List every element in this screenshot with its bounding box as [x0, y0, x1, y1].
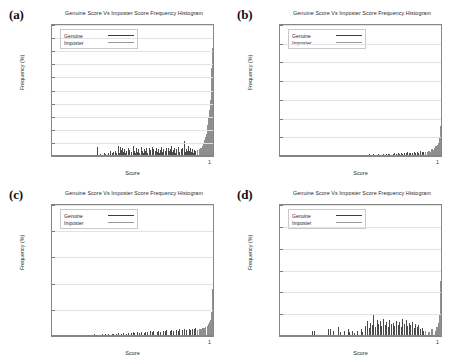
y-tick-mark [52, 64, 55, 65]
y-tick-mark [52, 77, 55, 78]
y-tick-mark [52, 25, 55, 26]
gridline [52, 143, 213, 144]
y-tick-mark [280, 292, 283, 293]
y-tick-mark [52, 91, 55, 92]
gridline [52, 38, 213, 39]
y-tick-mark [52, 117, 55, 118]
chart-panel-d: (d) Genuine Score Vs Imposter Score Freq… [228, 180, 456, 360]
gridline [280, 249, 441, 250]
y-tick-mark [52, 38, 55, 39]
y-tick-mark [280, 205, 283, 206]
y-tick-mark [52, 104, 55, 105]
y-axis-label-d: Frequency (%) [247, 235, 253, 270]
y-tick-mark [52, 130, 55, 131]
gridline [52, 205, 213, 206]
gridline [52, 231, 213, 232]
histogram-bar [441, 94, 442, 156]
gridline [52, 51, 213, 52]
y-tick-mark [52, 284, 55, 285]
gridline [52, 310, 213, 311]
gridline [280, 314, 441, 315]
panel-tag-c: (c) [9, 187, 23, 203]
y-tick-mark [280, 100, 283, 101]
histogram-figure: (a) Genuine Score Vs Imposter Score Freq… [0, 0, 457, 360]
gridline [52, 257, 213, 258]
chart-panel-c: (c) Genuine Score Vs Imposter Score Freq… [0, 180, 228, 360]
gridline [280, 205, 441, 206]
gridline [52, 130, 213, 131]
x-tick-label-d: 1 [436, 339, 439, 345]
panel-tag-a: (a) [9, 7, 24, 23]
y-tick-mark [280, 137, 283, 138]
y-tick-mark [280, 336, 283, 337]
gridline [52, 25, 213, 26]
y-tick-mark [52, 205, 55, 206]
gridline [280, 137, 441, 138]
y-tick-mark [280, 25, 283, 26]
x-axis-label-d: Score [279, 350, 442, 356]
y-tick-mark [52, 51, 55, 52]
plot-area-b: Genuine Imposter 05101520253035 [279, 24, 442, 157]
gridline [52, 117, 213, 118]
gridline [280, 100, 441, 101]
gridline [280, 119, 441, 120]
y-tick-mark [52, 336, 55, 337]
plot-area-d: Genuine Imposter 024681012 [279, 204, 442, 337]
y-tick-mark [280, 44, 283, 45]
gridline [280, 227, 441, 228]
y-tick-mark [280, 227, 283, 228]
histogram-bar [441, 208, 442, 336]
y-axis-label-b: Frequency (%) [247, 55, 253, 90]
chart-title-c: Genuine Score Vs Imposter Score Frequenc… [44, 190, 224, 196]
gridline [52, 64, 213, 65]
gridline [280, 81, 441, 82]
panel-tag-d: (d) [237, 187, 252, 203]
x-axis-line-b [280, 155, 441, 156]
chart-title-a: Genuine Score Vs Imposter Score Frequenc… [44, 10, 224, 16]
y-tick-mark [52, 257, 55, 258]
x-tick-label-a: 1 [208, 159, 211, 165]
gridline [280, 62, 441, 63]
x-tick-label-c: 1 [208, 339, 211, 345]
gridline [280, 44, 441, 45]
y-tick-mark [280, 314, 283, 315]
plot-area-a: Genuine Imposter 02468101214161820 [51, 24, 214, 157]
y-axis-label-a: Frequency (%) [19, 55, 25, 90]
x-axis-line-a [52, 155, 213, 156]
y-tick-mark [280, 81, 283, 82]
y-tick-mark [52, 231, 55, 232]
gridline [280, 25, 441, 26]
x-axis-label-c: Score [51, 350, 214, 356]
y-tick-mark [52, 143, 55, 144]
y-tick-mark [280, 249, 283, 250]
y-tick-mark [52, 310, 55, 311]
y-tick-mark [52, 156, 55, 157]
y-tick-mark [280, 271, 283, 272]
x-axis-label-b: Score [279, 170, 442, 176]
gridline [52, 284, 213, 285]
x-axis-label-a: Score [51, 170, 214, 176]
gridline [52, 104, 213, 105]
histogram-bars-c [52, 205, 213, 336]
y-tick-mark [280, 156, 283, 157]
chart-title-d: Genuine Score Vs Imposter Score Frequenc… [272, 190, 452, 196]
plot-area-c: Genuine Imposter 0510152025 [51, 204, 214, 337]
chart-title-b: Genuine Score Vs Imposter Score Frequenc… [272, 10, 452, 16]
chart-panel-a: (a) Genuine Score Vs Imposter Score Freq… [0, 0, 228, 180]
gridline [52, 91, 213, 92]
y-tick-mark [280, 119, 283, 120]
x-axis-line-c [52, 335, 213, 336]
gridline [280, 271, 441, 272]
x-axis-line-d [280, 335, 441, 336]
histogram-bar [213, 34, 214, 156]
x-tick-label-b: 1 [436, 159, 439, 165]
gridline [280, 292, 441, 293]
panel-tag-b: (b) [237, 7, 252, 23]
y-tick-mark [280, 62, 283, 63]
gridline [52, 77, 213, 78]
histogram-bar [213, 231, 214, 336]
chart-panel-b: (b) Genuine Score Vs Imposter Score Freq… [228, 0, 456, 180]
y-axis-label-c: Frequency (%) [19, 235, 25, 270]
